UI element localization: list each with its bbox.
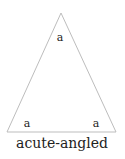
bottom-right-angle-label: a bbox=[93, 117, 100, 130]
acute-triangle-diagram: a a a acute-angled bbox=[0, 0, 125, 159]
triangle-caption: acute-angled bbox=[16, 135, 108, 151]
bottom-left-angle-label: a bbox=[24, 117, 31, 130]
apex-angle-label: a bbox=[57, 31, 64, 44]
